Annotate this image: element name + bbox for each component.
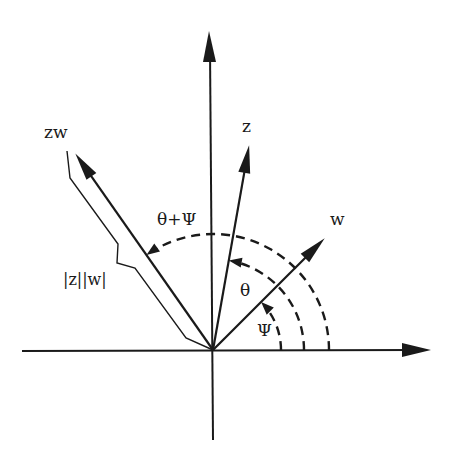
label-z: z xyxy=(242,116,251,136)
label-theta: θ xyxy=(240,280,250,300)
vectors-group xyxy=(75,145,324,350)
label-zw: zw xyxy=(44,122,68,142)
imaginary-axis xyxy=(210,50,213,440)
label-w: w xyxy=(330,209,345,229)
arc-theta-arrowhead xyxy=(229,258,243,268)
real-axis-arrowhead xyxy=(402,343,431,357)
label-modulus: |z||w| xyxy=(63,270,107,289)
arc-psi-arrowhead xyxy=(261,302,274,315)
imaginary-axis-arrowhead xyxy=(203,31,216,62)
real-axis xyxy=(22,350,415,351)
label-psi: Ψ xyxy=(257,320,272,340)
vector-zw-arrowhead xyxy=(75,153,96,179)
complex-multiplication-diagram: zw z w θ+Ψ θ Ψ |z||w| xyxy=(0,0,454,466)
vector-z-arrowhead xyxy=(238,145,250,174)
label-theta-plus-psi: θ+Ψ xyxy=(157,209,196,229)
arc-theta-plus-psi-arrowhead xyxy=(146,243,160,255)
vector-zw xyxy=(87,170,213,350)
arcs-group xyxy=(146,234,329,350)
